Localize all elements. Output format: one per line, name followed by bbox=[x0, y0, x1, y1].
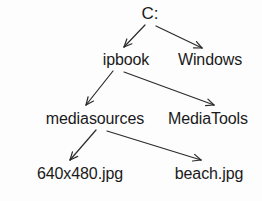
edge-ipbook-mediasources-arrow bbox=[86, 71, 113, 105]
node-windows: Windows bbox=[178, 52, 242, 68]
edge-mediasources-beach-arrowhead-barb-0 bbox=[193, 160, 201, 161]
edge-c-windows-shaft bbox=[156, 26, 202, 48]
edge-c-ipbook-shaft bbox=[124, 25, 145, 47]
edge-c-ipbook-arrow bbox=[124, 25, 145, 47]
edge-ipbook-mediatools-shaft bbox=[124, 72, 214, 105]
node-640x480-jpg: 640x480.jpg bbox=[37, 166, 123, 182]
node-ipbook: ipbook bbox=[103, 52, 150, 68]
edge-ipbook-mediatools-arrowhead-barb-0 bbox=[206, 105, 214, 106]
edge-c-windows-arrow bbox=[156, 26, 202, 48]
node-mediasources: mediasources bbox=[46, 111, 144, 127]
edge-mediasources-640-shaft bbox=[70, 130, 96, 160]
edge-mediasources-beach-shaft bbox=[107, 131, 201, 160]
edge-mediasources-640-arrow bbox=[70, 130, 96, 160]
node-beach-jpg: beach.jpg bbox=[175, 166, 244, 182]
edge-ipbook-mediatools-arrow bbox=[124, 72, 214, 106]
edge-ipbook-mediasources-shaft bbox=[86, 71, 113, 105]
node-drive-c: C: bbox=[142, 6, 159, 22]
directory-tree-diagram: C: ipbook Windows mediasources MediaTool… bbox=[0, 0, 262, 201]
edge-mediasources-beach-arrow bbox=[107, 131, 201, 161]
node-mediatools: MediaTools bbox=[168, 111, 248, 127]
